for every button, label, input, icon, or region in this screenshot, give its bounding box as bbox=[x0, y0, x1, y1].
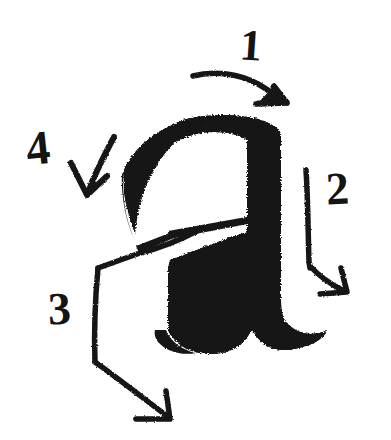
annotation-number-2: 2 bbox=[325, 165, 350, 212]
stroke-arrow-4 bbox=[71, 137, 114, 195]
letter-a-glyph bbox=[122, 115, 327, 354]
diagram-canvas: 1 2 3 4 bbox=[0, 0, 391, 440]
sketch-layer bbox=[0, 0, 391, 440]
annotation-number-4: 4 bbox=[24, 123, 53, 173]
annotation-number-1: 1 bbox=[238, 23, 263, 68]
annotation-number-3: 3 bbox=[47, 286, 72, 333]
stroke-arrow-1 bbox=[193, 73, 287, 104]
